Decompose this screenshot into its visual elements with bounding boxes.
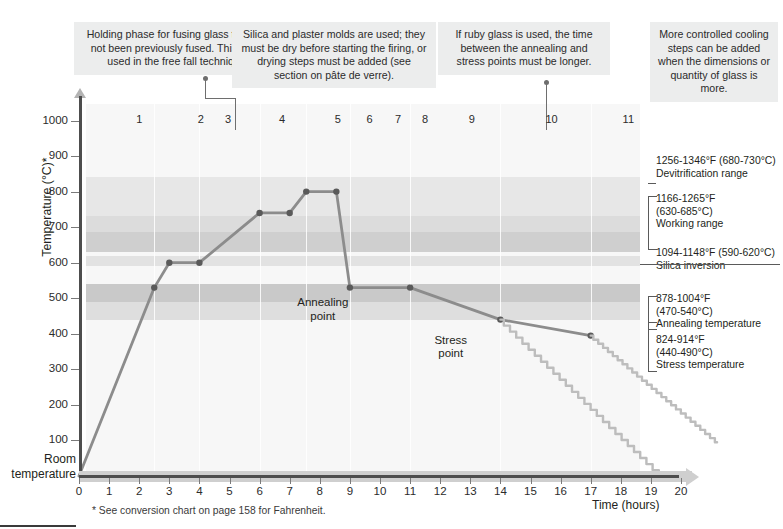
room-temperature-label: Roomtemperature [4, 452, 76, 481]
y-tick [71, 405, 79, 406]
y-tick-label: 100 [20, 433, 68, 445]
x-tick [651, 478, 652, 484]
x-tick [320, 478, 321, 484]
x-tick [139, 478, 140, 484]
footnote: * See conversion chart on page 158 for F… [92, 505, 326, 516]
x-tick-label: 17 [579, 485, 603, 497]
series-1-staircase [500, 320, 661, 477]
range-label-silica-inversion: 1094-1148°F (590-620°C)Silica inversion [656, 247, 782, 272]
range-leader-line [640, 264, 780, 265]
x-tick [380, 478, 381, 484]
data-point [196, 260, 202, 266]
y-tick-label: 400 [20, 327, 68, 339]
x-tick [470, 478, 471, 484]
step-number-2: 2 [191, 113, 211, 125]
x-tick-label: 16 [549, 485, 573, 497]
range-name: Stress temperature [656, 359, 782, 372]
annotation-molds: Silica and plaster molds are used; they … [232, 22, 436, 88]
x-tick [79, 478, 80, 484]
range-fahrenheit: 1094-1148°F (590-620°C) [656, 247, 782, 260]
step-number-4: 4 [272, 113, 292, 125]
annotation-ruby-glass: If ruby glass is used, the time between … [438, 22, 610, 75]
y-tick-label: 200 [20, 398, 68, 410]
range-name: Annealing temperature [656, 318, 782, 331]
bottom-rule [0, 525, 76, 527]
x-tick-label: 8 [308, 485, 332, 497]
label-stress-point: Stresspoint [421, 334, 481, 361]
y-tick-label: 300 [20, 362, 68, 374]
x-tick [681, 478, 682, 484]
data-point [287, 210, 293, 216]
x-tick-label: 2 [127, 485, 151, 497]
data-point [333, 188, 339, 194]
x-tick [440, 478, 441, 484]
y-tick [71, 334, 79, 335]
x-tick-label: 1 [97, 485, 121, 497]
step-number-3: 3 [218, 113, 238, 125]
x-tick-label: 18 [609, 485, 633, 497]
x-tick-label: 3 [157, 485, 181, 497]
data-point [151, 284, 157, 290]
data-point [303, 188, 309, 194]
range-fahrenheit: 1166-1265°F [656, 193, 782, 206]
x-axis-title: Time (hours) [592, 498, 660, 512]
range-fahrenheit: 878-1004°F [656, 293, 782, 306]
series-layer [86, 104, 640, 472]
plot-area: Annealingpoint Stresspoint [86, 104, 640, 472]
x-tick [109, 478, 110, 484]
x-tick-label: 10 [368, 485, 392, 497]
data-point [256, 210, 262, 216]
range-fahrenheit: 1256-1346°F (680-730°C) [656, 155, 782, 168]
step-number-5: 5 [328, 113, 348, 125]
x-tick-label: 20 [669, 485, 693, 497]
step-number-11: 11 [618, 113, 638, 125]
step-number-8: 8 [415, 113, 435, 125]
bracket-bottom [649, 371, 657, 372]
x-tick [591, 478, 592, 484]
x-tick-label: 0 [67, 485, 91, 497]
range-leader-line [648, 183, 656, 184]
bracket-top [649, 196, 657, 197]
range-leader-bracket [648, 196, 657, 250]
y-tick [71, 440, 79, 441]
x-tick [621, 478, 622, 484]
leader-seg-holding-h [205, 98, 236, 99]
range-label-annealing: 878-1004°F(470-540°C)Annealing temperatu… [656, 293, 782, 331]
series-0-line [79, 192, 591, 476]
range-name: Silica inversion [656, 260, 782, 273]
range-celsius: (630-685°C) [656, 206, 782, 219]
x-tick [169, 478, 170, 484]
step-number-10: 10 [542, 113, 562, 125]
x-tick-label: 6 [248, 485, 272, 497]
x-tick-label: 7 [278, 485, 302, 497]
x-tick [260, 478, 261, 484]
x-axis-arrow [686, 468, 699, 486]
y-tick [71, 263, 79, 264]
x-tick-label: 9 [338, 485, 362, 497]
data-point [347, 284, 353, 290]
range-celsius: (470-540°C) [656, 306, 782, 319]
y-tick [71, 121, 79, 122]
x-tick [500, 478, 501, 484]
x-tick-label: 11 [398, 485, 422, 497]
range-leader-bracket [648, 322, 657, 372]
label-annealing-point: Annealingpoint [288, 296, 358, 323]
leader-seg-holding-v1 [205, 80, 206, 98]
range-name: Devitrification range [656, 168, 782, 181]
x-tick [531, 478, 532, 484]
y-axis-title: Temperature (°C)* [40, 122, 54, 292]
bracket-top [649, 296, 657, 297]
x-tick-label: 5 [218, 485, 242, 497]
data-point [407, 284, 413, 290]
y-tick-label: 500 [20, 291, 68, 303]
range-name: Working range [656, 218, 782, 231]
y-tick [71, 156, 79, 157]
x-tick-label: 12 [428, 485, 452, 497]
data-point [166, 260, 172, 266]
x-tick-label: 14 [488, 485, 512, 497]
step-number-1: 1 [129, 113, 149, 125]
step-number-7: 7 [388, 113, 408, 125]
range-label-devitrification: 1256-1346°F (680-730°C)Devitrification r… [656, 155, 782, 180]
x-tick [410, 478, 411, 484]
x-tick-label: 4 [187, 485, 211, 497]
